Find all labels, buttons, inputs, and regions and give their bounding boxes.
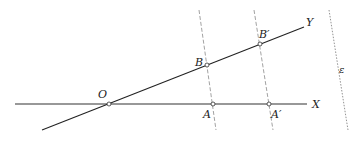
label-a: A: [202, 108, 211, 121]
point-b: [205, 63, 209, 67]
label-b: B: [194, 56, 203, 69]
point-a: [211, 102, 215, 106]
point-a-prime: [267, 102, 271, 106]
diagram-svg: O X Y A A′ B B′ ε: [0, 0, 359, 141]
label-epsilon: ε: [339, 64, 344, 75]
label-x: X: [311, 98, 321, 111]
label-y: Y: [306, 16, 315, 29]
label-b-prime: B′: [258, 28, 270, 41]
point-o: [107, 102, 111, 106]
diagram-canvas: O X Y A A′ B B′ ε: [0, 0, 359, 141]
label-o: O: [98, 88, 107, 101]
label-a-prime: A′: [270, 108, 282, 121]
point-b-prime: [258, 42, 262, 46]
